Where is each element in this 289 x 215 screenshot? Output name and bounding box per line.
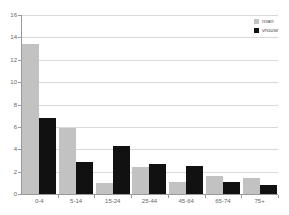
x-axis-tick-labels: 0-45-1415-2425-4445-6465-7475+	[21, 197, 278, 211]
bar-group	[131, 15, 168, 194]
y-tick-label: 12	[10, 57, 17, 63]
legend-label-man: man	[262, 18, 274, 24]
bar-man-25-44[interactable]	[132, 167, 149, 194]
x-tick-label: 0-4	[21, 197, 58, 205]
bar-vrouw-5-14[interactable]	[76, 162, 93, 194]
chart-legend: man vrouw	[254, 18, 278, 33]
bar-vrouw-15-24[interactable]	[113, 146, 130, 194]
legend-swatch-icon-man	[254, 19, 259, 24]
bar-group	[205, 15, 242, 194]
bar-man-45-64[interactable]	[169, 182, 186, 194]
legend-item-man[interactable]: man	[254, 18, 278, 24]
y-axis-tick-labels: 0246810121416	[0, 15, 17, 195]
legend-label-vrouw: vrouw	[262, 27, 278, 33]
y-tick-label: 14	[10, 34, 17, 40]
y-tick-label: 2	[14, 169, 17, 175]
x-tick-label: 45-64	[168, 197, 205, 205]
x-tick-label: 15-24	[94, 197, 131, 205]
y-tick-label: 16	[10, 12, 17, 18]
bar-group	[21, 15, 58, 194]
bar-group	[168, 15, 205, 194]
y-tick-label: 4	[14, 146, 17, 152]
bar-group	[94, 15, 131, 194]
y-tick-label: 8	[14, 102, 17, 108]
x-tick-label: 25-44	[131, 197, 168, 205]
bar-vrouw-45-64[interactable]	[186, 166, 203, 194]
x-tick-label: 5-14	[58, 197, 95, 205]
bar-man-15-24[interactable]	[96, 183, 113, 194]
bar-man-5-14[interactable]	[59, 128, 76, 194]
x-tick-label: 75+	[241, 197, 278, 205]
bar-vrouw-65-74[interactable]	[223, 182, 240, 194]
bar-chart: 0246810121416 0-45-1415-2425-4445-6465-7…	[0, 0, 289, 215]
bar-vrouw-0-4[interactable]	[39, 118, 56, 194]
bar-group	[58, 15, 95, 194]
y-tick-label: 10	[10, 79, 17, 85]
y-tick-label: 0	[14, 191, 17, 197]
legend-item-vrouw[interactable]: vrouw	[254, 27, 278, 33]
bar-vrouw-75+[interactable]	[260, 185, 277, 195]
x-tick-mark	[278, 195, 279, 198]
bar-man-75+[interactable]	[243, 178, 260, 194]
bars-layer	[21, 15, 278, 195]
bar-man-65-74[interactable]	[206, 176, 223, 194]
x-tick-label: 65-74	[205, 197, 242, 205]
bar-vrouw-25-44[interactable]	[149, 164, 166, 194]
legend-swatch-icon-vrouw	[254, 28, 259, 33]
plot-area	[21, 15, 278, 195]
bar-group	[241, 15, 278, 194]
y-tick-label: 6	[14, 124, 17, 130]
bar-man-0-4[interactable]	[22, 44, 39, 194]
